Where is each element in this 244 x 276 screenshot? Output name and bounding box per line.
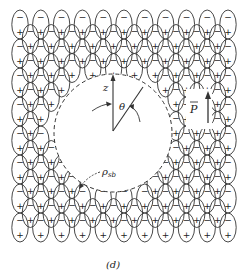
positive-charge-sign: + xyxy=(203,230,211,240)
positive-charge-sign: + xyxy=(79,230,87,240)
positive-charge-sign: + xyxy=(58,230,66,240)
positive-charge-sign: + xyxy=(58,85,66,95)
dipole: −+ xyxy=(220,213,236,242)
negative-charge-sign: − xyxy=(79,12,87,22)
positive-charge-sign: + xyxy=(224,27,232,37)
negative-charge-sign: − xyxy=(162,12,170,22)
positive-charge-sign: + xyxy=(224,114,232,124)
positive-charge-sign: + xyxy=(99,230,107,240)
positive-charge-sign: + xyxy=(224,201,232,211)
negative-charge-sign: − xyxy=(37,12,45,22)
figure-caption: (d) xyxy=(106,259,120,270)
negative-charge-sign: − xyxy=(224,41,232,51)
positive-charge-sign: + xyxy=(37,114,45,124)
negative-charge-sign: − xyxy=(141,12,149,22)
negative-charge-sign: − xyxy=(224,128,232,138)
z-label: z xyxy=(102,82,109,93)
dipole: −+ xyxy=(220,10,236,39)
positive-charge-sign: + xyxy=(120,230,128,240)
positive-charge-sign: + xyxy=(162,230,170,240)
theta-label: θ xyxy=(119,101,125,112)
negative-charge-sign: − xyxy=(16,12,24,22)
negative-charge-sign: − xyxy=(37,128,45,138)
negative-charge-sign: − xyxy=(224,186,232,196)
dipole: −+ xyxy=(220,184,236,213)
dielectric-cavity-diagram: −+−+−+−+−+−+−+−+−+−+−+−+−+−+−+−+−+−+−+−+… xyxy=(0,0,244,276)
positive-charge-sign: + xyxy=(224,143,232,153)
dipole: −+ xyxy=(220,68,236,97)
dipole: −+ xyxy=(220,155,236,184)
dipole: −+ xyxy=(220,97,236,126)
negative-charge-sign: − xyxy=(224,99,232,109)
negative-charge-sign: − xyxy=(183,12,191,22)
positive-charge-sign: + xyxy=(68,70,76,80)
positive-charge-sign: + xyxy=(141,230,149,240)
negative-charge-sign: − xyxy=(224,70,232,80)
negative-charge-sign: − xyxy=(224,215,232,225)
negative-charge-sign: − xyxy=(99,12,107,22)
positive-charge-sign: + xyxy=(224,85,232,95)
positive-charge-sign: + xyxy=(224,56,232,66)
negative-charge-sign: − xyxy=(58,12,66,22)
positive-charge-sign: + xyxy=(224,172,232,182)
positive-charge-sign: + xyxy=(16,230,24,240)
negative-charge-sign: − xyxy=(203,12,211,22)
positive-charge-sign: + xyxy=(37,230,45,240)
positive-charge-sign: + xyxy=(183,230,191,240)
dipole: −+ xyxy=(220,39,236,68)
positive-charge-sign: + xyxy=(47,99,55,109)
negative-charge-sign: − xyxy=(224,157,232,167)
negative-charge-sign: − xyxy=(120,12,128,22)
positive-charge-sign: + xyxy=(224,230,232,240)
polarization-label: P xyxy=(189,103,198,116)
negative-charge-sign: − xyxy=(224,12,232,22)
negative-charge-sign: − xyxy=(47,142,55,152)
dipole: −+ xyxy=(220,126,236,155)
